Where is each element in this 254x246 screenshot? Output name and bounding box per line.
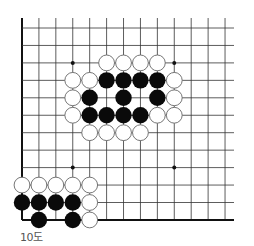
black-stone [132,107,148,123]
star-point [71,61,75,65]
black-stone [115,72,131,88]
white-stone [149,55,165,71]
white-stone [149,107,165,123]
white-stone [82,72,98,88]
black-stone [149,90,165,106]
black-stone [65,212,81,228]
black-stone [98,72,114,88]
black-stone [132,72,148,88]
black-stone [149,72,165,88]
black-stone [115,90,131,106]
white-stone [99,125,115,141]
white-stone [65,177,81,193]
white-stone [65,90,81,106]
white-stone [133,55,149,71]
diagram-caption: 10도 [20,231,43,244]
white-stone [116,55,132,71]
white-stone [116,125,132,141]
black-stone [48,194,64,210]
white-stone [99,55,115,71]
black-stone [115,107,131,123]
star-point [172,61,176,65]
black-stone [81,107,97,123]
black-stone [14,194,30,210]
white-stone [65,72,81,88]
white-stone [65,107,81,123]
black-stone [31,212,47,228]
black-stone [98,107,114,123]
white-stone [48,177,64,193]
star-point [172,166,176,170]
black-stone [81,90,97,106]
white-stone [14,177,30,193]
white-stone [166,72,182,88]
black-stone [65,194,81,210]
go-board [0,0,254,230]
white-stone [166,90,182,106]
white-stone [31,177,47,193]
white-stone [82,177,98,193]
white-stone [166,107,182,123]
white-stone [82,125,98,141]
white-stone [82,212,98,228]
white-stone [133,125,149,141]
black-stone [31,194,47,210]
star-point [71,166,75,170]
white-stone [82,195,98,211]
